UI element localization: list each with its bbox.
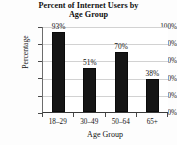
bar-slot-1: 51% — [74, 27, 105, 112]
x-tick-mark-0 — [42, 113, 43, 117]
bars-layer: 93% 51% 70% 38% — [43, 27, 168, 112]
x-tick-label-0: 18–29 — [42, 118, 74, 126]
x-tick-mark-4 — [167, 113, 168, 117]
chart-title-line-2: Age Group — [0, 10, 177, 19]
bar-value-label-3: 38% — [146, 70, 160, 78]
x-tick-label-1: 30–49 — [74, 118, 106, 126]
bar-value-label-2: 70% — [114, 43, 128, 51]
bar-value-label-0: 93% — [52, 23, 66, 31]
bar-slot-0: 93% — [43, 27, 74, 112]
bar-0 — [52, 32, 65, 112]
bar-slot-2: 70% — [106, 27, 137, 112]
plot-area: 93% 51% 70% 38% — [42, 27, 168, 113]
bar-1 — [83, 68, 96, 112]
bar-value-label-1: 51% — [83, 59, 97, 67]
bar-slot-3: 38% — [137, 27, 168, 112]
x-axis-tick-labels: 18–29 30–49 50–64 65+ — [42, 118, 168, 126]
bar-2 — [115, 52, 128, 112]
x-tick-mark-3 — [136, 113, 137, 117]
y-axis-title: Percentage — [22, 22, 30, 82]
chart-title-line-1: Percent of Internet Users by — [0, 1, 177, 10]
x-tick-label-2: 50–64 — [105, 118, 137, 126]
chart-title: Percent of Internet Users by Age Group — [0, 1, 177, 19]
x-tick-mark-2 — [105, 113, 106, 117]
x-axis-title: Age Group — [42, 130, 168, 139]
x-tick-mark-1 — [73, 113, 74, 117]
x-tick-label-3: 65+ — [137, 118, 169, 126]
bar-chart-figure: Percent of Internet Users by Age Group P… — [0, 0, 177, 145]
bar-3 — [146, 79, 159, 112]
